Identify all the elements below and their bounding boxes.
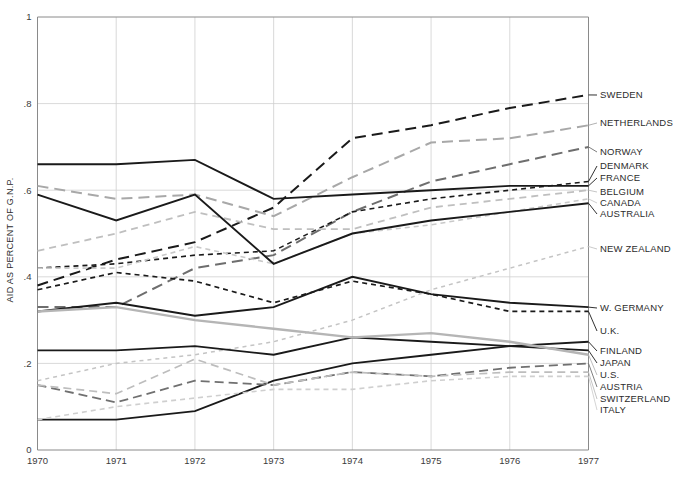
series-labels: SWEDENNETHERLANDSNORWAYDENMARKFRANCEBELG… — [600, 89, 673, 415]
y-tick-label: .8 — [24, 98, 32, 109]
series-line-norway — [38, 147, 589, 307]
leader-line-uk — [589, 311, 598, 331]
leader-line-norway — [589, 147, 598, 152]
series-leader-lines — [589, 95, 598, 410]
y-axis-title-text: AID AS PERCENT OF G.N.P. — [5, 178, 15, 303]
series-line-netherlands — [38, 125, 589, 216]
x-tick-label: 1970 — [27, 455, 48, 466]
series-line-austria — [38, 363, 589, 402]
leader-line-netherlands — [589, 123, 598, 125]
series-label-norway: NORWAY — [600, 146, 643, 157]
x-tick-label: 1972 — [184, 455, 205, 466]
series-label-france: FRANCE — [600, 172, 640, 183]
series-line-finland — [38, 342, 589, 420]
series-label-switzerland: SWITZERLAND — [600, 393, 670, 404]
leader-line-w-germany — [589, 307, 598, 308]
series-label-sweden: SWEDEN — [600, 89, 643, 100]
series-label-uk: U.K. — [600, 325, 619, 336]
series-label-w-germany: W. GERMANY — [600, 302, 664, 313]
chart-canvas: 0.2.4.6.81 19701971197219731974197519761… — [0, 0, 679, 480]
x-tick-label: 1971 — [106, 455, 127, 466]
series-label-austria: AUSTRIA — [600, 381, 643, 392]
leader-line-australia — [589, 203, 598, 214]
series-label-canada: CANADA — [600, 197, 641, 208]
leader-line-belgium — [589, 190, 598, 192]
aid-gnp-line-chart: 0.2.4.6.81 19701971197219731974197519761… — [0, 0, 679, 480]
leader-line-us — [589, 355, 598, 375]
series-label-finland: FINLAND — [600, 345, 642, 356]
y-axis-ticks: 0.2.4.6.81 — [24, 11, 32, 455]
y-tick-label: .6 — [24, 185, 32, 196]
series-label-new-zealand: NEW ZEALAND — [600, 243, 671, 254]
series-line-belgium — [38, 190, 589, 251]
series-label-us: U.S. — [600, 369, 619, 380]
x-tick-label: 1973 — [263, 455, 284, 466]
x-tick-label: 1976 — [499, 455, 520, 466]
leader-line-finland — [589, 342, 598, 351]
x-axis-ticks: 19701971197219731974197519761977 — [27, 455, 599, 466]
series-label-italy: ITALY — [600, 404, 626, 415]
x-tick-label: 1974 — [342, 455, 363, 466]
x-tick-label: 1977 — [578, 455, 599, 466]
y-tick-label: .4 — [24, 271, 32, 282]
series-lines — [38, 95, 589, 420]
y-axis-title: AID AS PERCENT OF G.N.P. — [5, 178, 15, 303]
y-tick-label: 0 — [26, 444, 31, 455]
series-label-netherlands: NETHERLANDS — [600, 117, 673, 128]
series-line-japan — [38, 337, 589, 354]
x-tick-label: 1975 — [421, 455, 442, 466]
series-line-italy — [38, 376, 589, 419]
leader-line-italy — [589, 376, 598, 410]
series-line-uk — [38, 272, 589, 311]
y-tick-label: .2 — [24, 358, 32, 369]
series-label-belgium: BELGIUM — [600, 186, 644, 197]
y-tick-label: 1 — [26, 11, 31, 22]
series-label-australia: AUSTRALIA — [600, 208, 655, 219]
leader-line-canada — [589, 199, 598, 203]
series-label-japan: JAPAN — [600, 357, 631, 368]
leader-line-new-zealand — [589, 246, 598, 249]
series-line-denmark — [38, 182, 589, 269]
series-label-denmark: DENMARK — [600, 160, 649, 171]
